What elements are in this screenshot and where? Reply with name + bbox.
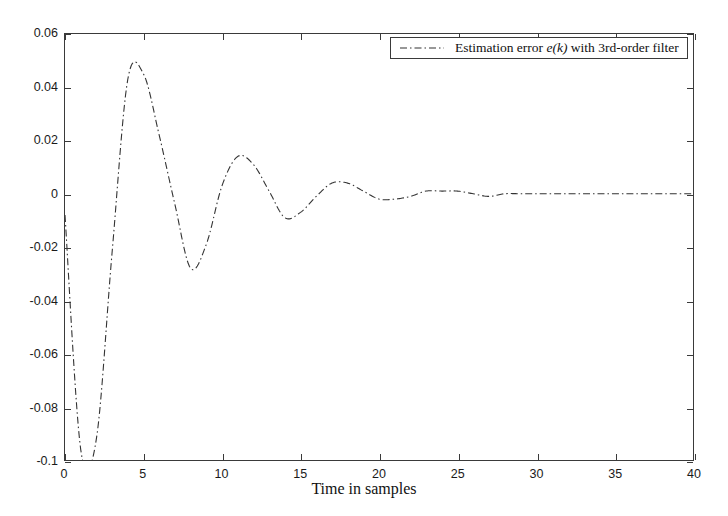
- x-tick-label-25: 25: [451, 467, 465, 481]
- x-tick-label-5: 5: [139, 467, 146, 481]
- y-tick-label--0.08: -0.08: [30, 401, 59, 415]
- y-tick-label--0.06: -0.06: [30, 347, 59, 361]
- x-tick-bottom-35: [616, 454, 617, 460]
- y-tick-right-0.06: [687, 34, 693, 35]
- x-tick-bottom-30: [538, 454, 539, 460]
- y-tick-label--0.02: -0.02: [30, 240, 59, 254]
- y-tick-left-0: [65, 195, 71, 196]
- y-tick-label-0.06: 0.06: [34, 26, 58, 40]
- legend-box: Estimation error e(k) with 3rd-order fil…: [390, 37, 688, 59]
- x-axis-title: Time in samples: [0, 480, 728, 498]
- estimation-error-line: [65, 62, 693, 460]
- y-tick-right--0.1: [687, 462, 693, 463]
- x-tick-bottom-40: [695, 454, 696, 460]
- y-tick-left--0.1: [65, 462, 71, 463]
- x-tick-label-15: 15: [293, 467, 307, 481]
- y-tick-right--0.04: [687, 302, 693, 303]
- x-tick-top-15: [301, 34, 302, 40]
- y-tick-right-0.04: [687, 88, 693, 89]
- y-tick-label--0.04: -0.04: [30, 294, 59, 308]
- x-tick-bottom-10: [223, 454, 224, 460]
- y-tick-left--0.02: [65, 248, 71, 249]
- x-tick-bottom-25: [459, 454, 460, 460]
- y-tick-left--0.04: [65, 302, 71, 303]
- y-tick-label-0: 0: [51, 187, 58, 201]
- x-tick-top-10: [223, 34, 224, 40]
- x-tick-bottom-0: [65, 454, 66, 460]
- y-tick-left--0.06: [65, 355, 71, 356]
- y-tick-right--0.02: [687, 248, 693, 249]
- x-tick-label-20: 20: [372, 467, 386, 481]
- y-tick-right-0: [687, 195, 693, 196]
- legend-label-prefix: Estimation error: [455, 40, 546, 55]
- legend-line-sample: [399, 42, 445, 54]
- x-tick-bottom-15: [301, 454, 302, 460]
- plot-area: [64, 33, 694, 461]
- y-tick-right-0.02: [687, 141, 693, 142]
- y-tick-label--0.1: -0.1: [36, 454, 58, 468]
- x-tick-bottom-20: [380, 454, 381, 460]
- y-tick-left-0.02: [65, 141, 71, 142]
- y-tick-left-0.04: [65, 88, 71, 89]
- y-tick-right--0.06: [687, 355, 693, 356]
- legend-label-suffix: with 3rd-order filter: [567, 40, 678, 55]
- x-tick-label-35: 35: [608, 467, 622, 481]
- x-tick-top-40: [695, 34, 696, 40]
- y-tick-right--0.08: [687, 409, 693, 410]
- y-tick-label-0.02: 0.02: [34, 133, 58, 147]
- x-tick-label-40: 40: [687, 467, 701, 481]
- legend-label: Estimation error e(k) with 3rd-order fil…: [455, 40, 679, 56]
- y-tick-label-0.04: 0.04: [34, 80, 58, 94]
- legend-label-variable: e(k): [546, 40, 567, 55]
- x-tick-top-5: [144, 34, 145, 40]
- x-tick-bottom-5: [144, 454, 145, 460]
- x-tick-label-30: 30: [530, 467, 544, 481]
- y-tick-left--0.08: [65, 409, 71, 410]
- y-tick-left-0.06: [65, 34, 71, 35]
- x-tick-top-20: [380, 34, 381, 40]
- x-tick-label-0: 0: [61, 467, 68, 481]
- x-tick-label-10: 10: [215, 467, 229, 481]
- data-curve: [65, 34, 693, 460]
- figure-canvas: 0.060.040.020-0.02-0.04-0.06-0.08-0.1 05…: [0, 0, 728, 516]
